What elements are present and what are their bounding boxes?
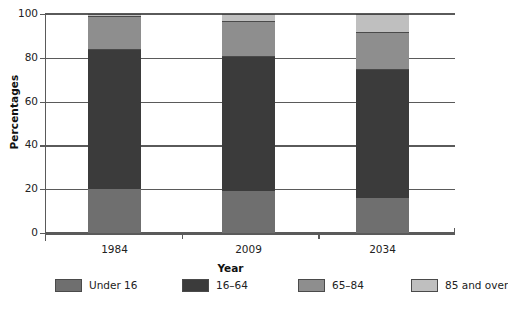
legend: Under 1616–6465–8485 and over	[0, 278, 461, 300]
y-tick-label-text: 80	[4, 52, 38, 63]
x-axis-title: Year	[0, 262, 461, 274]
y-tick-label-text: 0	[4, 227, 38, 238]
y-tick-label: 0	[0, 227, 38, 238]
legend-label: Under 16	[89, 278, 137, 293]
bar-segment	[356, 32, 409, 69]
y-tick-label: 40	[0, 139, 38, 150]
legend-label: 16–64	[216, 278, 248, 293]
x-axis-left-cap	[45, 234, 46, 241]
y-tick-label-text: 60	[4, 96, 38, 107]
y-tick-label: 60	[0, 96, 38, 107]
bar-segment	[222, 21, 275, 56]
y-tick-label-text: 20	[4, 183, 38, 194]
legend-swatch	[298, 279, 325, 292]
bar-1984	[88, 14, 141, 233]
bar-segment	[88, 14, 141, 16]
y-tick-label-text: 100	[4, 8, 38, 19]
bar-segment	[356, 69, 409, 198]
bar-segment	[356, 14, 409, 32]
legend-label: 85 and over	[445, 278, 508, 293]
legend-label: 65–84	[332, 278, 364, 293]
bar-2009	[222, 14, 275, 233]
x-axis-line	[45, 233, 455, 235]
bar-segment	[222, 14, 275, 21]
bar-segment	[88, 189, 141, 233]
bar-segment	[222, 191, 275, 233]
bar-segment	[88, 49, 141, 189]
y-tick-label: 80	[0, 52, 38, 63]
x-category-label: 2034	[338, 243, 428, 255]
legend-swatch	[55, 279, 82, 292]
bar-segment	[356, 198, 409, 233]
legend-swatch	[182, 279, 209, 292]
bar-segment	[88, 16, 141, 49]
y-tick-label-text: 40	[4, 139, 38, 150]
legend-swatch	[411, 279, 438, 292]
bar-segment	[222, 56, 275, 192]
x-category-label: 2009	[204, 243, 294, 255]
bar-2034	[356, 14, 409, 233]
y-tick-label: 100	[0, 8, 38, 19]
y-tick-label: 20	[0, 183, 38, 194]
x-category-label: 1984	[70, 243, 160, 255]
